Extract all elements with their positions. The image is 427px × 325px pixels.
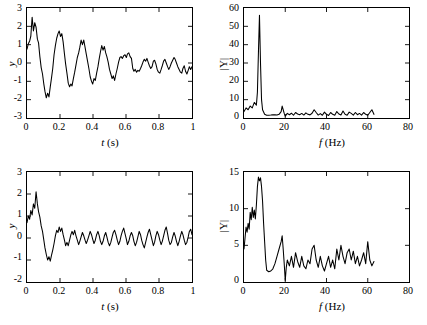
xtick-label: 40 bbox=[314, 121, 336, 132]
xtick-label: 0 bbox=[17, 285, 35, 296]
xtick-label: 0.2 bbox=[48, 121, 70, 132]
axis-label-x-bottom-left: t (s) bbox=[80, 300, 140, 312]
ytick-label: -2 bbox=[0, 92, 22, 103]
xtick-label: 40 bbox=[314, 285, 336, 296]
ytick-label: 50 bbox=[213, 20, 239, 31]
signal-trace-bottom-left bbox=[27, 192, 192, 261]
xtick-label: 60 bbox=[356, 121, 378, 132]
xtick-label: 20 bbox=[273, 285, 295, 296]
ytick-label: 3 bbox=[2, 2, 22, 13]
ytick-label: 1 bbox=[2, 38, 22, 49]
axis-label-x-top-right: f (Hz) bbox=[297, 136, 367, 148]
xtick-label: 0.6 bbox=[114, 121, 136, 132]
ytick-label: 10 bbox=[213, 202, 239, 213]
axis-var-f: f bbox=[319, 136, 322, 148]
ytick-label: -3 bbox=[0, 110, 22, 121]
ytick-label: 2 bbox=[2, 187, 22, 198]
ytick-label: -1 bbox=[0, 251, 22, 262]
tickmarks-top-right bbox=[244, 8, 409, 118]
ytick-label: 20 bbox=[213, 74, 239, 85]
plot-area-bottom-right bbox=[243, 171, 410, 283]
xtick-label: 0.6 bbox=[114, 285, 136, 296]
ytick-label: 30 bbox=[213, 56, 239, 67]
ytick-label: 5 bbox=[213, 238, 239, 249]
xtick-label: 0.2 bbox=[48, 285, 70, 296]
plot-svg-top-right bbox=[244, 8, 409, 118]
ytick-label: -1 bbox=[0, 74, 22, 85]
xtick-label: 0.8 bbox=[147, 285, 169, 296]
ytick-label: 0 bbox=[213, 274, 239, 285]
xtick-label: 0.4 bbox=[81, 121, 103, 132]
tickmarks-top-left bbox=[27, 8, 192, 118]
ytick-label: 40 bbox=[213, 38, 239, 49]
xtick-label: 0.4 bbox=[81, 285, 103, 296]
ytick-label: 2 bbox=[2, 20, 22, 31]
xtick-label: 80 bbox=[397, 285, 419, 296]
plot-svg-top-left bbox=[27, 8, 192, 118]
tickmarks-bottom-left bbox=[27, 172, 192, 282]
signal-trace-top-left bbox=[27, 17, 192, 98]
axis-var-t: t bbox=[101, 300, 104, 312]
axis-label-x-bottom-right: f (Hz) bbox=[297, 300, 367, 312]
xtick-label: 0 bbox=[234, 285, 252, 296]
plot-svg-bottom-right bbox=[244, 172, 409, 282]
ytick-label: 0 bbox=[2, 230, 22, 241]
xtick-label: 0.8 bbox=[147, 121, 169, 132]
axis-label-x-top-left: t (s) bbox=[80, 136, 140, 148]
xtick-label: 60 bbox=[356, 285, 378, 296]
xtick-label: 20 bbox=[273, 121, 295, 132]
plot-area-top-left bbox=[26, 7, 193, 119]
panel-bottom-right: |Y| 15 10 5 0 0 bbox=[213, 162, 427, 325]
panel-bottom-left: y 3 2 1 0 -1 -2 bbox=[0, 162, 214, 325]
spectrum-trace-top-right bbox=[244, 15, 374, 116]
ytick-label: 3 bbox=[2, 166, 22, 177]
xtick-label: 0 bbox=[17, 121, 35, 132]
panel-top-right: |Y| 60 50 40 30 20 10 0 bbox=[213, 0, 427, 163]
xtick-label: 1 bbox=[184, 285, 202, 296]
ytick-label: 60 bbox=[213, 2, 239, 13]
xtick-label: 1 bbox=[184, 121, 202, 132]
axis-var-t: t bbox=[101, 136, 104, 148]
xtick-label: 0 bbox=[234, 121, 252, 132]
ytick-label: 0 bbox=[2, 56, 22, 67]
ytick-label: 15 bbox=[213, 166, 239, 177]
ytick-label: 0 bbox=[213, 110, 239, 121]
ytick-label: 10 bbox=[213, 92, 239, 103]
figure-container: y 3 2 1 0 -1 -2 -3 bbox=[0, 0, 427, 325]
plot-svg-bottom-left bbox=[27, 172, 192, 282]
xtick-label: 80 bbox=[397, 121, 419, 132]
plot-area-bottom-left bbox=[26, 171, 193, 283]
axis-var-f: f bbox=[319, 300, 322, 312]
ytick-label: -2 bbox=[0, 273, 22, 284]
plot-area-top-right bbox=[243, 7, 410, 119]
spectrum-trace-bottom-right bbox=[244, 177, 374, 280]
ytick-label: 1 bbox=[2, 208, 22, 219]
panel-top-left: y 3 2 1 0 -1 -2 -3 bbox=[0, 0, 214, 163]
